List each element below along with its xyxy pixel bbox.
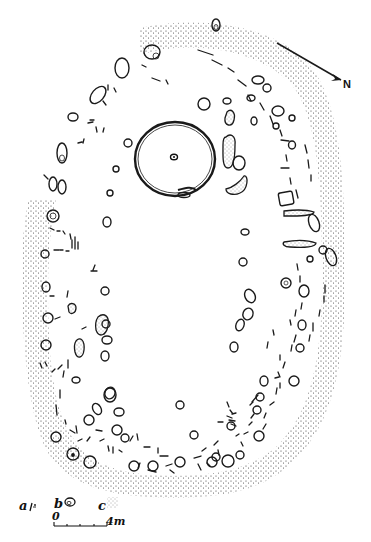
stippled-bank [22, 23, 345, 498]
scale-end-label: 4m [106, 515, 125, 528]
north-label: N [343, 78, 351, 90]
legend-a-symbol [30, 503, 36, 511]
legend-label-b: b [54, 496, 63, 511]
legend-label-a: a [19, 498, 27, 513]
central-post-hole [171, 154, 178, 160]
scale-bar [54, 522, 107, 526]
legend-label-c: c [98, 498, 106, 513]
site-plan [0, 0, 371, 542]
stake-holes [40, 50, 325, 473]
legend-c-symbol [107, 497, 118, 508]
scale-start-label: 0 [52, 510, 60, 523]
legend-b-symbol [65, 498, 75, 506]
